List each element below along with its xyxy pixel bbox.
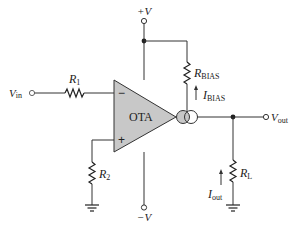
current-source-circle-left — [177, 111, 190, 124]
rbias-resistor — [184, 62, 190, 84]
circuit-diagram: +V RBIAS IBIAS OTA − + −V Vin R1 R2 Vout… — [0, 0, 301, 229]
negative-supply-label: −V — [137, 211, 152, 223]
rbias-top-wire — [144, 41, 187, 62]
positive-supply-terminal — [141, 18, 146, 23]
rbias-label: RBIAS — [193, 66, 220, 81]
r1-label: R1 — [68, 72, 80, 87]
ota-label: OTA — [129, 110, 153, 124]
vout-terminal — [263, 114, 268, 119]
r1-resistor — [65, 89, 84, 97]
inverting-input-symbol: − — [118, 86, 125, 100]
ground-icon-r2 — [85, 205, 99, 211]
iout-arrowhead-icon — [219, 169, 223, 174]
rl-label: RL — [239, 166, 252, 181]
iout-label: Iout — [207, 187, 223, 202]
rl-resistor — [230, 160, 236, 182]
negative-supply-terminal — [141, 205, 146, 210]
ibias-label: IBIAS — [202, 88, 225, 103]
ground-icon-rl — [226, 205, 240, 211]
vin-terminal — [29, 90, 34, 95]
positive-supply-label: +V — [137, 5, 152, 17]
ibias-arrowhead-icon — [194, 85, 198, 90]
vin-label: Vin — [9, 87, 22, 100]
vout-label: Vout — [271, 111, 289, 125]
r2-resistor — [89, 162, 95, 184]
r2-label: R2 — [98, 167, 110, 182]
noninverting-input-symbol: + — [118, 133, 125, 147]
noninverting-wire — [92, 140, 114, 162]
